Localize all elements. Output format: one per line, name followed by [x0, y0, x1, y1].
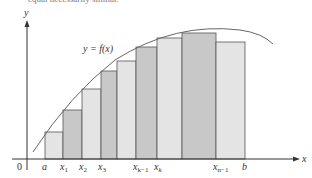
tick-label: xn−1 [212, 161, 229, 174]
riemann-sum-diagram: y x 0 y = f(x) ax1x2x3xk−1xkxn−1b [0, 0, 312, 178]
tick-label: a [42, 161, 47, 172]
tick-label: xk [153, 161, 162, 174]
riemann-rectangle [63, 110, 82, 159]
riemann-rectangle [101, 71, 117, 159]
riemann-rectangle [117, 61, 136, 159]
riemann-rectangle [216, 42, 245, 159]
curve-label: y = f(x) [82, 43, 114, 55]
tick-label: x3 [97, 161, 106, 174]
riemann-rectangle [182, 33, 216, 159]
tick-label: x2 [78, 161, 87, 174]
origin-label: 0 [17, 161, 22, 172]
x-axis-arrow-icon [293, 157, 300, 162]
riemann-rectangle [45, 132, 63, 159]
tick-label: xk−1 [132, 161, 149, 174]
y-axis-label: y [23, 7, 29, 18]
riemann-rectangle [157, 38, 182, 159]
x-axis-label: x [301, 153, 307, 164]
y-axis-arrow-icon [25, 20, 30, 27]
riemann-rectangles [45, 33, 245, 159]
tick-label: b [242, 161, 247, 172]
tick-label: x1 [59, 161, 68, 174]
tick-labels: ax1x2x3xk−1xkxn−1b [42, 161, 247, 174]
riemann-rectangle [82, 89, 101, 159]
riemann-rectangle [136, 47, 157, 159]
